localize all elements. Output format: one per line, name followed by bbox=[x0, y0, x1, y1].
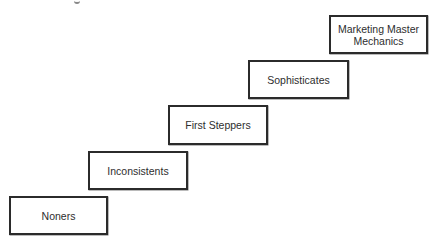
step-noners: Noners bbox=[9, 196, 108, 235]
step-label: Noners bbox=[38, 210, 80, 222]
step-label: Sophisticates bbox=[263, 74, 333, 86]
step-marketing-master-mechanics: Marketing Master Mechanics bbox=[329, 15, 428, 54]
step-sophisticates: Sophisticates bbox=[248, 60, 349, 99]
step-label: Inconsistents bbox=[103, 165, 172, 177]
step-inconsistents: Inconsistents bbox=[88, 151, 188, 190]
step-label: First Steppers bbox=[181, 119, 254, 131]
cut-off-title-fragment bbox=[74, 0, 80, 4]
step-label: Marketing Master Mechanics bbox=[331, 23, 426, 47]
step-first-steppers: First Steppers bbox=[168, 105, 268, 145]
